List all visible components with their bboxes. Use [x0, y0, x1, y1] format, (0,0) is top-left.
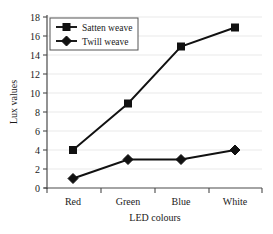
y-axis-title: Lux values [8, 80, 19, 124]
x-tick-label-green: Green [116, 196, 140, 207]
data-point-satten-blue [178, 43, 185, 50]
y-tick-label-14: 14 [30, 50, 40, 61]
x-tick-label-white: White [223, 196, 248, 207]
y-tick-label-18: 18 [30, 12, 40, 23]
series-twill-weave [68, 145, 240, 184]
data-point-satten-white [232, 24, 239, 31]
legend-marker-satten-square [63, 24, 70, 31]
x-axis-title: LED colours [129, 212, 180, 223]
y-tick-label-6: 6 [35, 126, 40, 137]
y-tick-label-8: 8 [35, 107, 40, 118]
legend-label-satten: Satten weave [82, 23, 132, 33]
y-tick-label-10: 10 [30, 88, 40, 99]
x-tick-label-red: Red [65, 196, 81, 207]
y-tick-label-4: 4 [35, 145, 40, 156]
x-tick-label-blue: Blue [172, 196, 191, 207]
data-point-satten-red [70, 147, 77, 154]
data-point-twill-white [230, 145, 240, 155]
y-tick-label-16: 16 [30, 31, 40, 42]
x-axis-ticks [47, 188, 262, 193]
data-point-twill-blue [176, 155, 186, 165]
series-twill-weave-line [73, 150, 235, 179]
data-point-twill-red [68, 174, 78, 184]
data-point-twill-green [123, 155, 133, 165]
y-tick-label-2: 2 [35, 164, 40, 175]
chart-container: 18 16 14 12 10 8 6 4 2 0 Red Green Blue … [0, 0, 273, 234]
data-point-satten-green [125, 100, 132, 107]
y-tick-label-0: 0 [35, 183, 40, 194]
legend-label-twill: Twill weave [82, 37, 129, 47]
y-tick-label-12: 12 [30, 69, 40, 80]
chart-legend: Satten weave Twill weave [50, 18, 138, 50]
line-chart: 18 16 14 12 10 8 6 4 2 0 Red Green Blue … [0, 0, 273, 234]
